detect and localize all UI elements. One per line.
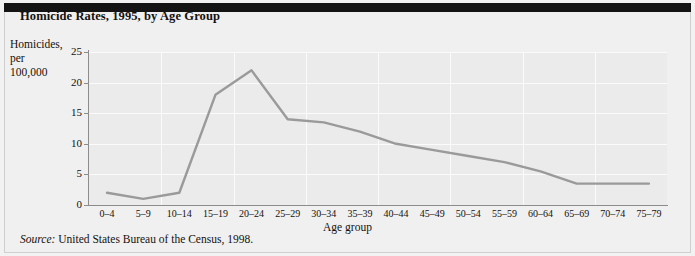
x-axis-tick-label: 0–4 (100, 208, 115, 219)
x-axis-line (88, 205, 668, 206)
y-axis-tick-mark (84, 205, 88, 206)
plot-area (89, 52, 667, 205)
x-axis-title: Age group (0, 221, 695, 233)
y-axis-tick-label: 25 (58, 45, 82, 57)
x-axis-tick-label: 55–59 (492, 208, 517, 219)
x-axis-tick-label: 10–14 (167, 208, 192, 219)
x-axis-tick-label: 40–44 (384, 208, 409, 219)
y-axis-tick-label: 10 (58, 137, 82, 149)
x-axis-tick-label: 45–49 (420, 208, 445, 219)
y-axis-tick-label: 0 (58, 198, 82, 210)
source-label: Source: (20, 233, 55, 245)
chart-title: Homicide Rates, 1995, by Age Group (20, 9, 220, 24)
x-axis-tick-label: 25–29 (275, 208, 300, 219)
x-axis-tick-label: 75–79 (636, 208, 661, 219)
y-axis-tick-mark (84, 144, 88, 145)
y-axis-tick-mark (84, 83, 88, 84)
x-axis-tick-label: 50–54 (456, 208, 481, 219)
figure-container: Homicide Rates, 1995, by Age Group Homic… (0, 0, 695, 256)
y-axis-tick-labels: 0510152025 (56, 52, 82, 205)
x-axis-tick-label: 30–34 (311, 208, 336, 219)
source-note: Source: United States Bureau of the Cens… (20, 233, 253, 245)
data-line-series (89, 52, 667, 205)
y-axis-tick-label: 5 (58, 167, 82, 179)
x-axis-tick-label: 65–69 (564, 208, 589, 219)
x-axis-tick-label: 20–24 (239, 208, 264, 219)
x-axis-tick-label: 35–39 (347, 208, 372, 219)
x-axis-tick-label: 5–9 (136, 208, 151, 219)
source-text: United States Bureau of the Census, 1998… (58, 233, 253, 245)
y-axis-tick-label: 20 (58, 76, 82, 88)
y-axis-title: Homicides, per 100,000 (10, 37, 63, 79)
y-axis-tick-label: 15 (58, 106, 82, 118)
y-axis-tick-mark (84, 52, 88, 53)
x-axis-tick-label: 60–64 (528, 208, 553, 219)
y-axis-tick-mark (84, 174, 88, 175)
x-axis-tick-label: 15–19 (203, 208, 228, 219)
y-axis-line (88, 50, 89, 206)
y-axis-tick-mark (84, 113, 88, 114)
x-axis-tick-label: 70–74 (600, 208, 625, 219)
